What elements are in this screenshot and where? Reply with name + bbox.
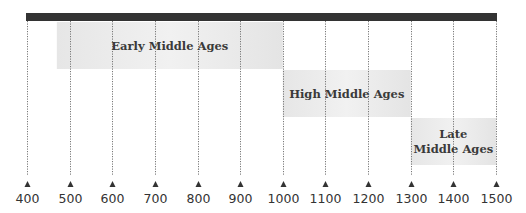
tick-marker-icon (451, 181, 457, 187)
tick-label: 1400 (438, 191, 470, 206)
era-label-line: Early Middle Ages (111, 39, 228, 53)
tick-marker-icon (238, 181, 244, 187)
tick-label: 800 (187, 191, 211, 206)
year-ticks: 4005006007008009001000110012001300140015… (16, 181, 513, 206)
tick-label: 500 (59, 191, 83, 206)
era-label-line: Middle Ages (414, 142, 494, 156)
tick-marker-icon (110, 181, 116, 187)
tick-marker-icon (494, 181, 500, 187)
era-label-line: Late (439, 127, 467, 141)
tick-label: 1100 (310, 191, 342, 206)
tick-label: 600 (101, 191, 125, 206)
tick-marker-icon (153, 181, 159, 187)
tick-marker-icon (366, 181, 372, 187)
tick-label: 1200 (353, 191, 385, 206)
era-label: Early Middle Ages (111, 39, 228, 53)
tick-label: 1300 (396, 191, 428, 206)
tick-label: 1500 (481, 191, 513, 206)
tick-marker-icon (196, 181, 202, 187)
medieval-timeline: Early Middle AgesHigh Middle AgesLateMid… (0, 0, 526, 213)
tick-label: 400 (16, 191, 40, 206)
timeline-bar (26, 13, 497, 21)
tick-marker-icon (281, 181, 287, 187)
tick-marker-icon (409, 181, 415, 187)
tick-label: 1000 (268, 191, 300, 206)
tick-label: 700 (144, 191, 168, 206)
tick-marker-icon (25, 181, 31, 187)
tick-marker-icon (323, 181, 329, 187)
era-label-line: High Middle Ages (289, 87, 404, 101)
tick-label: 900 (229, 191, 253, 206)
era-label: High Middle Ages (289, 87, 404, 101)
tick-marker-icon (68, 181, 74, 187)
